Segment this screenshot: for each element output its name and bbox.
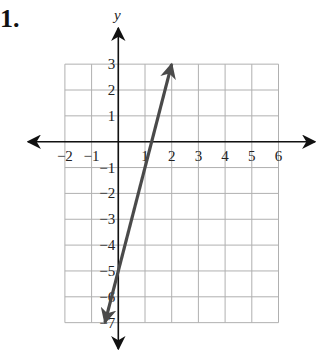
y-tick-label: 3 — [108, 56, 116, 72]
x-tick-label: 2 — [168, 148, 176, 164]
y-tick-label: −4 — [99, 237, 115, 253]
x-tick-label: −2 — [57, 148, 73, 164]
x-tick-label: 6 — [275, 148, 283, 164]
coordinate-graph: −2−1123456321−1−2−3−4−5−6−7 y — [0, 0, 319, 350]
y-tick-label: 2 — [108, 82, 116, 98]
x-tick-label: 5 — [248, 148, 256, 164]
y-tick-label: −2 — [99, 185, 115, 201]
grid-lines — [65, 64, 279, 323]
y-tick-label: 1 — [108, 108, 116, 124]
y-tick-label: −1 — [99, 160, 115, 176]
y-tick-label: −3 — [99, 211, 115, 227]
x-tick-label: 3 — [195, 148, 203, 164]
y-axis-label: y — [112, 7, 121, 23]
y-tick-label: −5 — [99, 263, 115, 279]
x-tick-label: 4 — [221, 148, 229, 164]
x-tick-label: −1 — [84, 148, 100, 164]
